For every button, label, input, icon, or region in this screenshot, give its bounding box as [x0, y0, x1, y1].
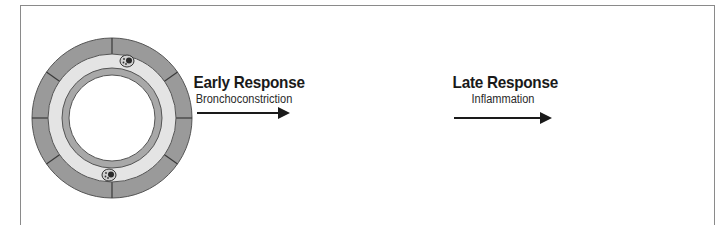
late-response-arrow [454, 117, 550, 119]
early-response-label: Early Response Bronchoconstriction [188, 73, 300, 107]
late-response-subtitle: Inflammation [454, 92, 553, 107]
bronchial-response-diagram: Early Response Bronchoconstriction Late … [0, 0, 726, 225]
airway-illustrations [0, 0, 726, 225]
early-response-arrow [197, 112, 288, 114]
normal-airway [32, 38, 192, 198]
late-response-label: Late Response Inflammation [447, 73, 559, 107]
mast-cell [102, 169, 116, 181]
early-response-title: Early Response [194, 73, 295, 92]
early-response-subtitle: Bronchoconstriction [195, 92, 294, 107]
late-response-title: Late Response [453, 73, 554, 92]
mast-cell [120, 55, 134, 67]
